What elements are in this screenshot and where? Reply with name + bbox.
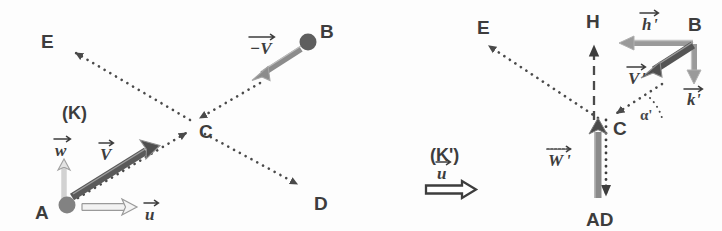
point-label-left-e: E	[41, 31, 54, 52]
vector-u-frame	[426, 181, 476, 198]
path-c-to-d	[205, 134, 297, 184]
angle-label-alpha-prime: α'	[640, 107, 653, 123]
svg-text:V: V	[628, 69, 641, 88]
vector-k-prime-head	[687, 70, 701, 84]
vector-u-head	[122, 199, 137, 215]
vector-label-minus-v: −V	[249, 34, 274, 58]
frame-label-k: (K)	[62, 103, 87, 123]
prime-mark-w: '	[566, 151, 571, 170]
vector-label-v: V	[99, 140, 113, 164]
point-label-right-e: E	[477, 17, 490, 38]
vector-minus-v-head	[252, 67, 270, 81]
point-label-right-c: C	[613, 118, 627, 139]
vector-label-w: w	[54, 136, 70, 160]
path-c-to-e	[76, 53, 190, 120]
node-point-b	[300, 34, 317, 51]
prime-mark-k: '	[696, 90, 701, 109]
prime-mark-h: '	[653, 15, 658, 34]
vector-h-prime-head	[619, 36, 634, 50]
vector-u-frame-shaft	[426, 181, 476, 198]
point-label-left-d: D	[314, 193, 328, 214]
vector-label-u: u	[144, 200, 158, 224]
svg-text:V: V	[100, 145, 113, 164]
vector-label-w-prime: W '	[547, 146, 571, 170]
vector-label-h-prime: h '	[640, 10, 658, 34]
point-label-left-b: B	[320, 21, 334, 42]
panel-right: E H B C AD (K') α' h ' k ' V '	[426, 10, 702, 230]
point-label-left-c: C	[199, 121, 213, 142]
svg-text:w: w	[55, 141, 67, 160]
svg-text:−V: −V	[250, 39, 273, 58]
point-label-right-ad: AD	[586, 209, 613, 230]
svg-text:h: h	[642, 15, 651, 34]
vector-label-v-prime: V '	[627, 64, 646, 88]
node-point-a	[59, 197, 76, 214]
vector-diagram: E B C D A (K) V w u −V	[0, 0, 722, 231]
vector-label-k-prime: k '	[684, 86, 702, 109]
svg-text:k: k	[687, 90, 696, 109]
prime-mark-v: '	[641, 69, 646, 88]
panel-left: E B C D A (K) V w u −V	[35, 21, 334, 224]
vector-w-prime-head	[589, 118, 607, 134]
path-b-to-c	[200, 83, 260, 118]
point-label-right-b: B	[688, 14, 702, 35]
svg-text:u: u	[145, 205, 154, 224]
figure-root: E B C D A (K) V w u −V	[0, 0, 722, 231]
svg-text:W: W	[548, 151, 565, 170]
point-label-right-h: H	[586, 11, 600, 32]
path-a-to-c	[78, 133, 186, 198]
point-label-left-a: A	[35, 202, 49, 223]
svg-text:u: u	[437, 164, 446, 183]
path-right-c-to-e	[489, 46, 598, 118]
